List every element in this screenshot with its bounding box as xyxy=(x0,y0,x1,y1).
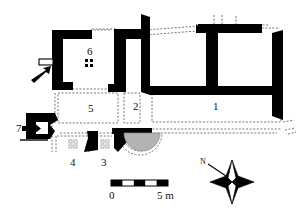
wall-return-room5-east xyxy=(108,84,116,92)
wall-pier-east-room2 xyxy=(141,14,150,95)
site-plan-drawing xyxy=(0,0,301,216)
room-label-4: 4 xyxy=(70,157,76,168)
room-label-7: 7 xyxy=(16,123,22,134)
wall-north-east-stub xyxy=(245,24,262,33)
room-label-3: 3 xyxy=(101,157,107,168)
room-label-1: 1 xyxy=(213,101,219,112)
scale-bar-start-label: 0 xyxy=(109,190,115,201)
scale-bar-end-label: 5 m xyxy=(157,190,174,201)
wall-spine-room1 xyxy=(206,33,218,95)
wall-south-west-room6 xyxy=(52,82,73,90)
room-label-5: 5 xyxy=(88,103,94,114)
wall-divider-room1 xyxy=(150,86,272,95)
wall-east-room1 xyxy=(272,30,283,120)
scale-bar xyxy=(111,180,168,186)
wall-west-room6 xyxy=(52,30,63,88)
wall-pier-west-room2 xyxy=(114,32,126,92)
room-label-6: 6 xyxy=(87,46,93,57)
north-arrow-label: N xyxy=(200,158,206,166)
window-niche-room6 xyxy=(39,59,53,65)
room-label-2: 2 xyxy=(133,101,139,112)
